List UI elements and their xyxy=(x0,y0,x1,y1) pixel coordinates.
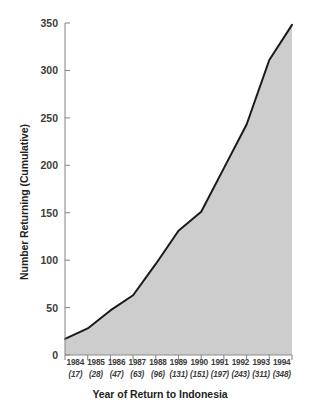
x-tick-count: (131) xyxy=(168,369,189,381)
x-tick-label-group: 1988(96) xyxy=(148,357,169,383)
x-tick-count: (243) xyxy=(230,369,251,381)
x-tick-count: (63) xyxy=(127,369,148,381)
x-tick-label-group: 1991(197) xyxy=(209,357,230,383)
x-axis-tick-labels: 1984(17)1985(28)1986(47)1987(63)1988(96)… xyxy=(65,357,292,383)
y-axis-ticks xyxy=(65,23,70,355)
x-tick-label-group: 1990(151) xyxy=(189,357,210,383)
y-tick-label: 350 xyxy=(28,18,58,28)
x-tick-label-group: 1984(17) xyxy=(65,357,86,383)
x-tick-year: 1993 xyxy=(251,357,272,369)
y-tick-label: 0 xyxy=(28,350,58,360)
x-tick-count: (348) xyxy=(271,369,292,381)
area-fill xyxy=(65,25,292,355)
x-tick-label-group: 1994(348) xyxy=(271,357,292,383)
x-tick-count: (47) xyxy=(106,369,127,381)
x-tick-count: (311) xyxy=(251,369,272,381)
x-tick-count: (17) xyxy=(65,369,86,381)
y-tick-label: 200 xyxy=(28,160,58,170)
x-tick-label-group: 1986(47) xyxy=(106,357,127,383)
x-tick-year: 1988 xyxy=(148,357,169,369)
y-tick-label: 300 xyxy=(28,65,58,75)
x-tick-year: 1986 xyxy=(106,357,127,369)
x-tick-count: (197) xyxy=(209,369,230,381)
x-tick-label-group: 1993(311) xyxy=(251,357,272,383)
area-series xyxy=(65,25,292,355)
x-tick-label-group: 1989(131) xyxy=(168,357,189,383)
y-tick-label: 150 xyxy=(28,208,58,218)
x-axis-title: Year of Return to Indonesia xyxy=(0,388,320,400)
x-tick-label-group: 1985(28) xyxy=(86,357,107,383)
y-tick-label: 100 xyxy=(28,255,58,265)
x-tick-year: 1991 xyxy=(209,357,230,369)
chart-figure: Number Returning (Cumulative) 0501001502… xyxy=(0,0,320,411)
x-tick-year: 1989 xyxy=(168,357,189,369)
x-tick-year: 1990 xyxy=(189,357,210,369)
y-tick-label: 50 xyxy=(28,303,58,313)
x-tick-year: 1994 xyxy=(271,357,292,369)
x-tick-year: 1992 xyxy=(230,357,251,369)
x-tick-count: (96) xyxy=(148,369,169,381)
y-tick-label: 250 xyxy=(28,113,58,123)
x-tick-label-group: 1992(243) xyxy=(230,357,251,383)
x-tick-year: 1984 xyxy=(65,357,86,369)
x-tick-label-group: 1987(63) xyxy=(127,357,148,383)
x-tick-year: 1985 xyxy=(86,357,107,369)
x-tick-year: 1987 xyxy=(127,357,148,369)
x-tick-count: (28) xyxy=(86,369,107,381)
x-tick-count: (151) xyxy=(189,369,210,381)
